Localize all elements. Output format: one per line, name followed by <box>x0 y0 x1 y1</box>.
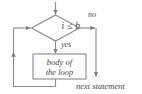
condition-label: i ≤ b <box>0 22 142 32</box>
loop-body-label-line1: body of <box>33 58 86 67</box>
loop-body-label-line2: the loop <box>33 68 86 77</box>
edge-label-yes: yes <box>61 41 71 49</box>
next-statement-label: next statement <box>76 82 125 91</box>
flowchart-canvas: i ≤ b no yes body of the loop next state… <box>0 0 142 94</box>
edge-label-no: no <box>88 11 96 19</box>
